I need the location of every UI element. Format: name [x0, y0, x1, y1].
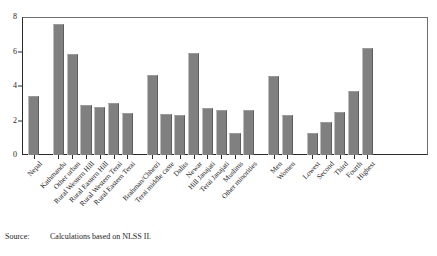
source-note: Source:Calculations based on NLSS II. [5, 232, 151, 242]
bar [362, 48, 373, 155]
x-tick-mark [221, 155, 222, 159]
x-tick-mark [235, 155, 236, 159]
x-tick-mark [326, 155, 327, 159]
x-tick-mark [166, 155, 167, 159]
y-tick-label: 6 [13, 48, 17, 56]
bar [160, 114, 171, 155]
x-tick-mark [114, 155, 115, 159]
y-axis: 02468 [0, 0, 22, 165]
bar [28, 96, 39, 155]
x-tick-mark [34, 155, 35, 159]
bar [188, 53, 199, 155]
bar [229, 133, 240, 155]
x-tick-mark [127, 155, 128, 159]
x-tick-mark [58, 155, 59, 159]
bar [122, 113, 133, 155]
x-tick-mark [312, 155, 313, 159]
y-tick-label: 4 [13, 82, 17, 90]
bar [320, 122, 331, 155]
bar [243, 110, 254, 155]
bar [147, 75, 158, 155]
source-label: Source: [5, 232, 50, 242]
bar [94, 107, 105, 155]
x-tick-mark [72, 155, 73, 159]
y-tick-label: 8 [13, 13, 17, 21]
y-tick-label: 2 [13, 117, 17, 125]
source-text: Calculations based on NLSS II. [50, 232, 151, 242]
bar [67, 54, 78, 155]
x-tick-mark [367, 155, 368, 159]
bar [174, 115, 185, 155]
bar [80, 105, 91, 155]
bar [216, 110, 227, 155]
bar [108, 103, 119, 155]
x-tick-mark [86, 155, 87, 159]
bar [268, 76, 279, 155]
x-tick-mark [287, 155, 288, 159]
bar [53, 24, 64, 155]
bar [348, 91, 359, 155]
x-tick-mark [194, 155, 195, 159]
x-tick-mark [249, 155, 250, 159]
x-tick-mark [180, 155, 181, 159]
x-tick-mark [100, 155, 101, 159]
bar [307, 133, 318, 155]
x-tick-mark [207, 155, 208, 159]
bars-container [22, 17, 428, 155]
x-axis-labels: NepalKathmanduOther urbanRural Western H… [22, 160, 437, 222]
x-tick-mark [274, 155, 275, 159]
x-tick-mark [340, 155, 341, 159]
x-tick-label: Nepal [26, 160, 43, 178]
bar [282, 115, 293, 155]
x-tick-mark [354, 155, 355, 159]
bar [202, 108, 213, 155]
chart-plot-area: 02468 [0, 0, 437, 165]
x-tick-mark [152, 155, 153, 159]
bar [334, 112, 345, 155]
figure: 02468 NepalKathmanduOther urbanRural Wes… [0, 0, 437, 256]
y-tick-label: 0 [13, 151, 17, 159]
